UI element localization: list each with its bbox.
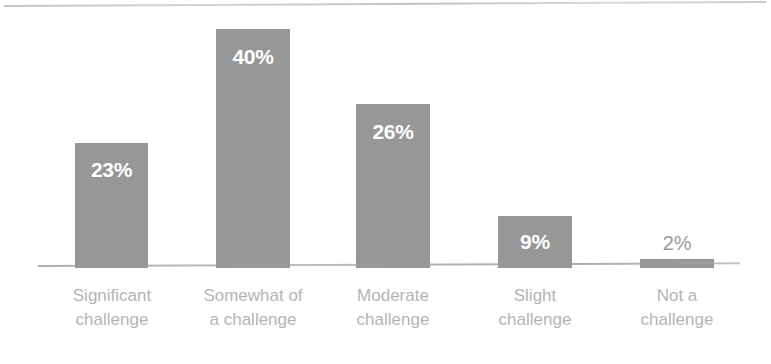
category-label-line: challenge [317, 308, 469, 332]
top-divider-rule [4, 1, 766, 7]
category-label-line: Moderate [317, 284, 469, 308]
x-axis-category-labels: Significant challenge Somewhat of a chal… [0, 284, 771, 356]
category-label-line: Slight [459, 284, 611, 308]
category-label-significant-challenge: Significant challenge [36, 284, 188, 332]
bar-group-slight-challenge: 9% [498, 216, 572, 268]
category-label-line: Significant [36, 284, 188, 308]
category-label-line: Not a [601, 284, 753, 308]
category-label-line: challenge [601, 308, 753, 332]
bar-chart-figure: 23% 40% 26% 9% 2% Significant challenge [0, 0, 771, 364]
plot-area: 23% 40% 26% 9% 2% [0, 18, 771, 268]
bar-value-moderate-challenge: 26% [356, 121, 430, 142]
category-label-slight-challenge: Slight challenge [459, 284, 611, 332]
bar-value-slight-challenge: 9% [498, 231, 572, 252]
bar-value-significant-challenge: 23% [75, 159, 148, 180]
bar-group-somewhat-of-a-challenge: 40% [216, 29, 290, 268]
category-label-not-a-challenge: Not a challenge [601, 284, 753, 332]
category-label-moderate-challenge: Moderate challenge [317, 284, 469, 332]
bar-group-significant-challenge: 23% [75, 143, 148, 268]
bar-value-not-a-challenge: 2% [640, 233, 714, 253]
bar-value-somewhat-of-a-challenge: 40% [216, 46, 290, 67]
category-label-line: Somewhat of [177, 284, 329, 308]
category-label-line: challenge [36, 308, 188, 332]
bar-group-moderate-challenge: 26% [356, 104, 430, 268]
category-label-line: challenge [459, 308, 611, 332]
category-label-line: a challenge [177, 308, 329, 332]
category-label-somewhat-of-a-challenge: Somewhat of a challenge [177, 284, 329, 332]
